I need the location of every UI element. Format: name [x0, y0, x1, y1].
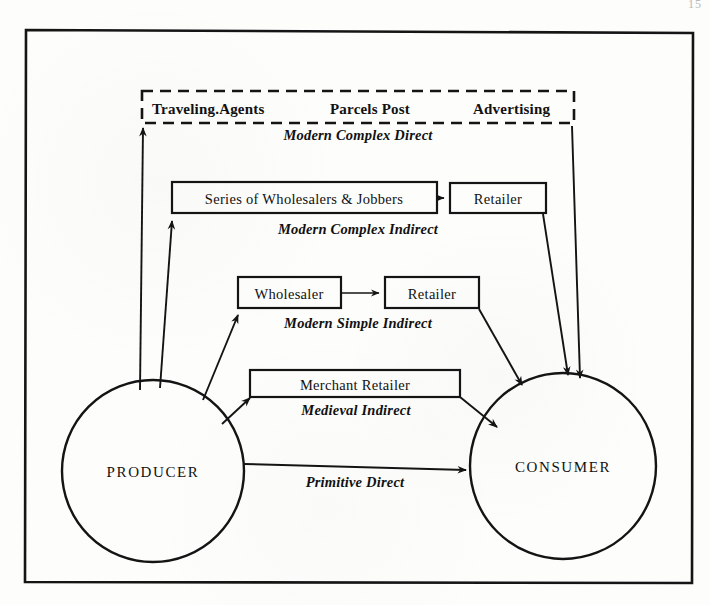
modern-complex-direct-label: Modern Complex Direct: [282, 127, 433, 143]
medieval-indirect-label: Medieval Indirect: [300, 402, 411, 418]
medieval-indirect-group: Merchant Retailer Medieval Indirect: [222, 370, 497, 427]
producer-label: PRODUCER: [107, 464, 200, 480]
arrow-merchant-retailer-to-consumer: [460, 397, 497, 427]
distribution-channels-diagram: PRODUCER CONSUMER Traveling.Agents Parce…: [0, 0, 710, 605]
arrow-producer-to-merchant-retailer: [222, 398, 250, 424]
arrow-producer-to-wholesaler: [203, 315, 238, 400]
merchant-retailer-label: Merchant Retailer: [300, 377, 410, 393]
consumer-node: CONSUMER: [470, 373, 656, 559]
arrow-producer-to-series-wholesalers: [160, 221, 172, 388]
arrow-producer-to-consumer-direct: [244, 464, 466, 470]
primitive-direct-group: Primitive Direct: [244, 464, 466, 490]
modern-complex-indirect-label: Modern Complex Indirect: [277, 221, 439, 237]
producer-node: PRODUCER: [62, 380, 244, 562]
arrow-retailer-simple-to-consumer: [479, 309, 522, 385]
wholesaler-label: Wholesaler: [254, 286, 323, 302]
arrow-producer-to-complex-direct: [140, 128, 143, 390]
consumer-label: CONSUMER: [515, 459, 611, 475]
parcels-post-label: Parcels Post: [330, 101, 410, 117]
modern-simple-indirect-label: Modern Simple Indirect: [283, 315, 433, 331]
series-of-wholesalers-label: Series of Wholesalers & Jobbers: [205, 191, 403, 207]
retailer-label-simple: Retailer: [408, 286, 456, 302]
traveling-agents-label: Traveling.Agents: [152, 101, 265, 117]
arrow-retailer-complex-to-consumer: [543, 214, 568, 375]
arrow-complex-direct-to-consumer: [572, 126, 580, 378]
diagram-page: 15 PRODUCER CONSUMER Trave: [0, 0, 710, 605]
primitive-direct-label: Primitive Direct: [306, 474, 405, 490]
modern-complex-direct-group: Traveling.Agents Parcels Post Advertisin…: [140, 91, 580, 390]
advertising-label: Advertising: [473, 101, 551, 117]
retailer-label-complex: Retailer: [474, 191, 522, 207]
